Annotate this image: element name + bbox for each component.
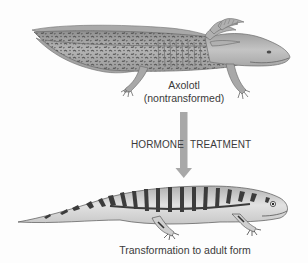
axolotl-transformation-figure: Axolotl (nontransformed) HORMONE TREATME… xyxy=(0,0,308,263)
figure-illustration xyxy=(0,0,308,263)
axolotl-label: Axolotl xyxy=(134,79,234,91)
nontransformed-label: (nontransformed) xyxy=(129,92,239,104)
hormone-label: HORMONE xyxy=(131,139,184,151)
adult-form-caption: Transformation to adult form xyxy=(110,244,260,256)
adult-salamander-illustration xyxy=(18,186,288,240)
treatment-label: TREATMENT xyxy=(190,139,251,151)
